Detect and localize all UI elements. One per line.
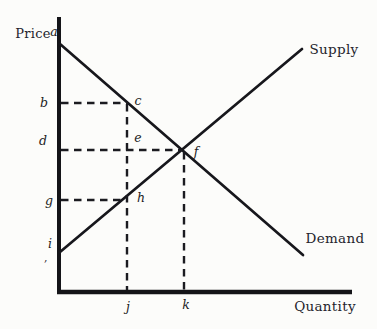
point-label-j: j <box>126 299 130 314</box>
stray-print-mark: , <box>44 251 48 264</box>
point-label-f: f <box>194 144 199 159</box>
supply-demand-diagram: Price Quantity Supply Demand a b c d e f… <box>0 0 377 329</box>
point-label-h: h <box>137 190 145 205</box>
point-label-b: b <box>40 95 48 110</box>
point-label-d: d <box>39 133 47 148</box>
supply-curve-label: Supply <box>310 41 359 57</box>
point-label-e: e <box>134 130 141 145</box>
point-label-g: g <box>45 193 53 208</box>
demand-curve-label: Demand <box>306 230 365 246</box>
point-label-a: a <box>50 24 57 39</box>
point-label-i: i <box>48 236 52 251</box>
point-label-k: k <box>182 297 190 312</box>
y-axis-label: Price <box>15 26 51 41</box>
x-axis-label: Quantity <box>294 298 356 314</box>
point-label-c: c <box>134 93 141 108</box>
